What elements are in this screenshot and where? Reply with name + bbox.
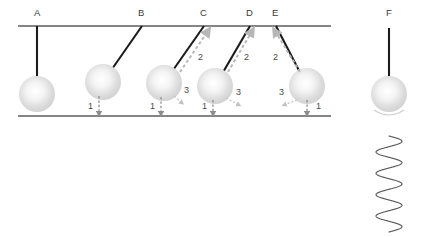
pendulum-d-marker-one: 1 [202, 101, 207, 111]
spring-oscillation [376, 136, 402, 232]
pendulum-d-marker-three: 3 [236, 87, 241, 97]
pendulum-f-bob [371, 76, 407, 112]
pendulum-e-rise-arrow [275, 31, 300, 72]
pendulum-a: A [19, 7, 55, 112]
pendulum-c-rise-arrow [180, 31, 208, 72]
pendulum-f-label: F [386, 7, 392, 18]
pendulum-e-fall-arrow [284, 100, 297, 105]
pendulum-b-label: B [138, 7, 144, 18]
pendulum-d-label: D [246, 7, 253, 18]
pendulum-e-marker-one: 1 [316, 101, 321, 111]
pendulum-svg-canvas: A 1 B 2 3 1 C 2 3 [0, 0, 427, 237]
pendulum-c-fall-arrow [174, 96, 182, 103]
pendulum-d-fall-arrow [226, 98, 239, 105]
pendulum-a-bob [19, 76, 55, 112]
pendulum-c-marker-one: 1 [150, 101, 155, 111]
pendulum-e-marker-two: 2 [273, 52, 278, 62]
pendulum-c-marker-two: 2 [198, 52, 203, 62]
pendulum-e-bob [289, 68, 325, 104]
pendulum-f: F [371, 7, 407, 115]
pendulum-c: 2 3 1 C [146, 7, 208, 114]
pendulum-diagram: A 1 B 2 3 1 C 2 3 [0, 0, 427, 237]
pendulum-c-bob [146, 65, 182, 101]
pendulum-e-label: E [272, 7, 278, 18]
pendulum-b-marker-one: 1 [88, 101, 93, 111]
pendulum-d-marker-two: 2 [244, 52, 249, 62]
spring-wave-path [376, 136, 402, 232]
pendulum-e: 2 3 1 E [272, 7, 325, 114]
pendulum-e-marker-three: 3 [279, 87, 284, 97]
pendulum-c-marker-three: 3 [184, 85, 189, 95]
pendulum-a-label: A [34, 7, 41, 18]
pendulum-b-bob [85, 64, 121, 100]
pendulum-b: 1 B [85, 7, 144, 114]
pendulum-c-label: C [200, 7, 207, 18]
pendulum-d: 2 3 1 D [197, 7, 253, 114]
